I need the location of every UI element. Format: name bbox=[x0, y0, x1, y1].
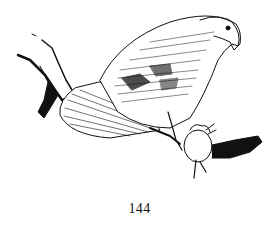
hawk-illustration bbox=[0, 0, 279, 190]
page-number: 144 bbox=[0, 201, 279, 217]
hawk-with-prey-icon bbox=[0, 0, 279, 190]
